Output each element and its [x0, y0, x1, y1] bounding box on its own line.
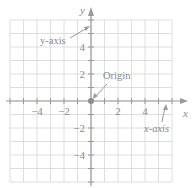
x-tick-label: −4 — [31, 105, 43, 117]
y-axis-letter: y — [79, 4, 85, 16]
x-axis-annotation-arrowhead-icon — [163, 104, 168, 110]
coordinate-plane: y x −4−224 42−2−4 y-axis Origin x-axis — [0, 0, 192, 188]
x-axis-annotation: x-axis — [143, 123, 169, 134]
y-tick-label: −2 — [73, 122, 85, 134]
y-tick-label: 2 — [80, 68, 86, 80]
x-tick-labels: −4−224 — [31, 105, 148, 117]
origin-annotation: Origin — [103, 70, 131, 81]
y-tick-label: 4 — [80, 41, 86, 53]
y-axis-annotation: y-axis — [40, 35, 66, 46]
x-axis-letter: x — [182, 107, 188, 119]
x-axis-arrow-icon — [180, 98, 188, 104]
y-tick-label: −4 — [73, 149, 85, 161]
x-tick-label: 4 — [142, 105, 148, 117]
y-axis-annotation-arrowhead-icon — [84, 26, 90, 31]
origin-annotation-arrow — [95, 84, 107, 97]
y-axis-annotation-arrow — [70, 28, 87, 38]
y-axis-arrow-icon — [88, 7, 94, 16]
x-tick-label: −2 — [58, 105, 70, 117]
x-tick-label: 2 — [115, 105, 121, 117]
